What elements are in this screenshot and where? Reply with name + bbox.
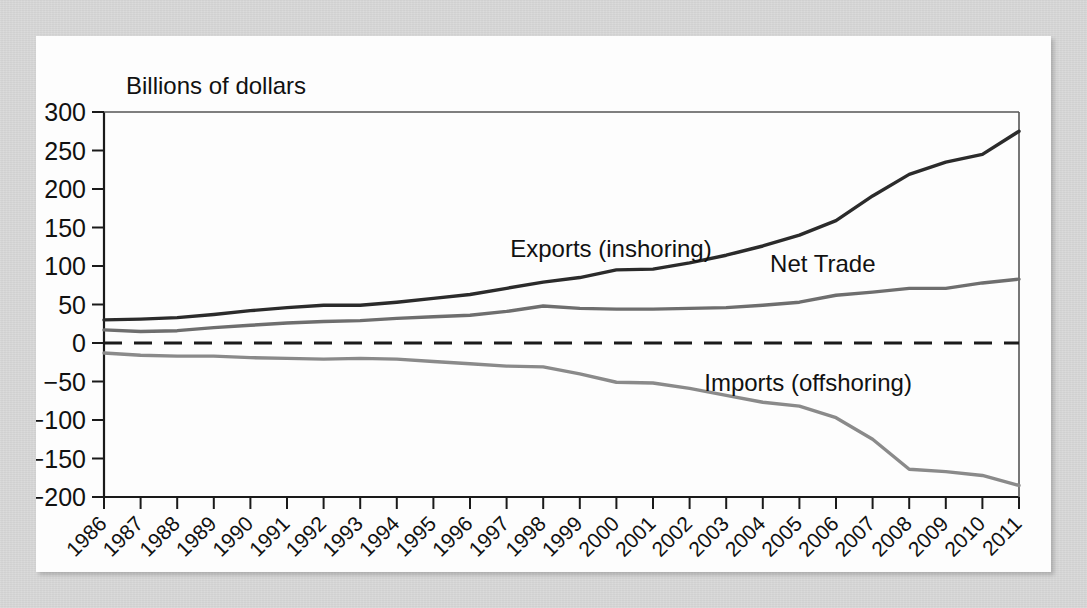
x-tick-label: 2003 xyxy=(684,512,733,561)
x-tick-label: 1991 xyxy=(245,512,294,561)
x-tick-label: 2011 xyxy=(978,512,1026,560)
series-label-1: Net Trade xyxy=(770,250,875,277)
y-tick-label: 300 xyxy=(44,98,86,126)
y-tick-label: 250 xyxy=(44,137,86,165)
y-tick-label: −100 xyxy=(36,406,86,434)
x-tick-label: 1992 xyxy=(281,512,330,561)
figure-panel: Billions of dollars300250200150100500−50… xyxy=(36,36,1051,572)
x-tick-label: 2001 xyxy=(611,512,660,561)
x-tick-label: 1999 xyxy=(537,512,586,561)
x-tick-label: 1989 xyxy=(171,512,220,561)
x-tick-label: 1986 xyxy=(62,512,111,561)
series-label-0: Exports (inshoring) xyxy=(510,235,711,262)
x-tick-label: 1994 xyxy=(354,511,404,561)
y-tick-label: −150 xyxy=(36,445,86,473)
x-tick-label: 2004 xyxy=(720,511,770,561)
x-tick-label: 2010 xyxy=(940,512,989,561)
y-tick-label: 100 xyxy=(44,252,86,280)
series-line-1 xyxy=(104,279,1019,331)
x-tick-label: 2008 xyxy=(867,512,916,561)
y-tick-label: 50 xyxy=(58,291,86,319)
x-tick-label: 2006 xyxy=(794,512,843,561)
y-tick-label: 150 xyxy=(44,214,86,242)
x-tick-label: 1995 xyxy=(391,512,440,561)
y-tick-label: 0 xyxy=(72,329,86,357)
y-tick-label: −50 xyxy=(44,368,86,396)
x-tick-label: 1993 xyxy=(318,512,367,561)
x-tick-label: 2007 xyxy=(830,512,879,561)
x-tick-label: 1990 xyxy=(208,512,257,561)
x-tick-label: 1996 xyxy=(428,512,477,561)
line-chart: Billions of dollars300250200150100500−50… xyxy=(36,36,1051,572)
x-tick-label: 2009 xyxy=(903,512,952,561)
x-tick-label: 1988 xyxy=(135,512,184,561)
x-tick-label: 2000 xyxy=(574,512,623,561)
x-tick-label: 1987 xyxy=(98,512,147,561)
x-tick-label: 2002 xyxy=(647,512,696,561)
x-tick-label: 2005 xyxy=(757,512,806,561)
page-background: Billions of dollars300250200150100500−50… xyxy=(0,0,1087,608)
x-tick-label: 1997 xyxy=(464,512,513,561)
y-axis-title: Billions of dollars xyxy=(126,72,306,99)
x-tick-label: 1998 xyxy=(501,512,550,561)
y-tick-label: 200 xyxy=(44,175,86,203)
series-label-2: Imports (offshoring) xyxy=(704,369,912,396)
y-tick-label: −200 xyxy=(36,483,86,511)
